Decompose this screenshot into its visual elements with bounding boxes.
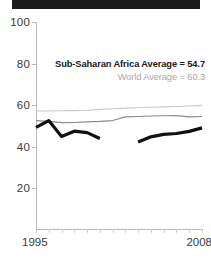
y-tick-label-20: 20 xyxy=(17,182,30,194)
y-tick-label-60: 60 xyxy=(17,99,30,111)
y-tick-label-40: 40 xyxy=(17,141,30,153)
y-tick-label-100: 100 xyxy=(10,16,30,28)
x-axis-start-label: 1995 xyxy=(22,236,48,248)
series-line-sub-saharan-africa-average xyxy=(36,116,202,123)
chart-figure: 20406080100 1995 2008 Sub-Saharan Africa… xyxy=(0,0,211,261)
plot-area: 20406080100 1995 2008 xyxy=(36,22,202,230)
series-lines xyxy=(36,22,202,230)
x-tick-2008 xyxy=(202,229,203,233)
legend-item-world-average: World Average = 60.3 xyxy=(50,71,205,84)
series-line-world-average xyxy=(36,105,202,111)
x-axis-end-label: 2008 xyxy=(186,236,211,248)
legend: Sub-Saharan Africa Average = 54.7 World … xyxy=(50,58,205,83)
y-tick-label-80: 80 xyxy=(17,58,30,70)
legend-item-sub-saharan-africa-average: Sub-Saharan Africa Average = 54.7 xyxy=(50,58,205,71)
series-line-country xyxy=(36,121,202,142)
title-bar xyxy=(12,0,200,9)
